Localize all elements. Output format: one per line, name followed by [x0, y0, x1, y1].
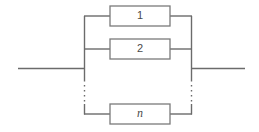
block-n-label: n	[137, 106, 143, 120]
reliability-block-diagram: 1 2 n	[0, 0, 259, 132]
block-2-label: 2	[137, 42, 143, 54]
diagram-canvas: 1 2 n	[0, 0, 259, 132]
block-1: 1	[110, 6, 170, 26]
block-1-label: 1	[137, 9, 143, 21]
block-n: n	[110, 104, 170, 124]
block-2: 2	[110, 39, 170, 59]
